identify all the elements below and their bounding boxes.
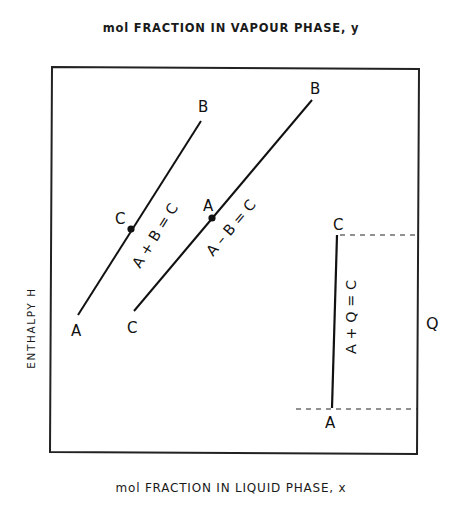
heat-equation: A + Q = C (343, 280, 359, 354)
point-label-b: B (310, 80, 320, 98)
addition-equation: A + B = C (129, 200, 181, 270)
point-label-a: A (71, 322, 82, 340)
mixture-point-c (127, 225, 134, 232)
liquid-phase-axis-title: mol FRACTION IN LIQUID PHASE, x (0, 481, 462, 495)
point-label-c: C (115, 210, 125, 228)
heat-q-label: Q (426, 314, 439, 333)
subtraction-mixing-line: C B A A – B = C (127, 80, 320, 337)
diagram-frame (50, 67, 419, 454)
point-label-c: C (127, 319, 137, 337)
difference-point-a (208, 214, 215, 221)
point-label-b: B (198, 98, 208, 116)
enthalpy-composition-diagram: A B C A + B = C C B A A – B = C C A A + … (0, 0, 462, 505)
point-label-a: A (203, 197, 214, 215)
point-label-c: C (333, 216, 343, 234)
point-label-a: A (325, 414, 336, 432)
